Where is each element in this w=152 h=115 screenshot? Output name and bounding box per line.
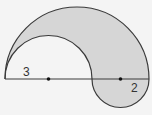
diagram-canvas: 3 2 xyxy=(0,0,152,115)
center-dot-right xyxy=(119,77,123,81)
shaded-region xyxy=(5,7,149,108)
geometry-diagram: 3 2 xyxy=(0,0,152,115)
radius-label-left: 3 xyxy=(23,65,30,79)
center-dot-left xyxy=(47,77,51,81)
radius-label-right: 2 xyxy=(131,81,138,95)
